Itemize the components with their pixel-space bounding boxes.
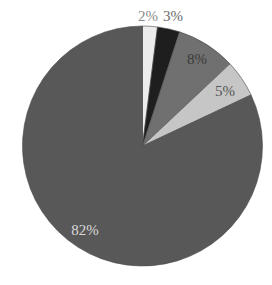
slice-label-3pct: 3%: [163, 8, 183, 24]
slice-label-2pct: 2%: [138, 8, 158, 24]
pie-chart: 2% 3% 8% 5% 82%: [0, 0, 272, 285]
pie-slices: [22, 26, 262, 266]
slice-label-82pct: 82%: [71, 222, 99, 238]
slice-label-8pct: 8%: [187, 51, 207, 67]
slice-label-5pct: 5%: [215, 83, 235, 99]
